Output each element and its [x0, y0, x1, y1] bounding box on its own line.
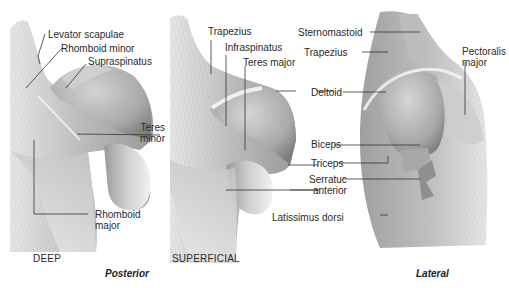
label-pectoralis-major-line1: Pectoralis: [462, 46, 506, 57]
label-serratus-anterior-line1: Serratuc: [309, 174, 347, 185]
label-infraspinatus: Infraspinatus: [225, 42, 282, 53]
label-deltoid: Deltoid: [311, 87, 342, 98]
label-trapezius-lateral: Trapezius: [304, 47, 348, 58]
label-trapezius-posterior: Trapezius: [208, 26, 252, 37]
label-serratus-anterior-line2: anterior: [313, 185, 347, 196]
label-triceps: Triceps: [311, 158, 343, 169]
caption-lateral: Lateral: [416, 268, 449, 279]
label-teres-minor-line2: minor: [139, 133, 165, 144]
label-rhomboid-minor: Rhomboid minor: [61, 43, 134, 54]
label-rhomboid-major-line2: major: [95, 220, 120, 231]
label-sternomastoid: Sternomastoid: [298, 27, 362, 38]
label-rhomboid-major-line1: Rhomboid: [95, 209, 141, 220]
label-teres-minor-line1: Teres: [139, 122, 165, 133]
anatomy-figure: Levator scapulae Rhomboid minor Supraspi…: [0, 0, 509, 288]
label-pectoralis-major-line2: major: [462, 57, 487, 68]
label-biceps: Biceps: [311, 139, 341, 150]
label-teres-major: Teres major: [243, 57, 295, 68]
caption-posterior: Posterior: [105, 268, 149, 279]
caption-superficial: SUPERFICIAL: [172, 253, 240, 264]
label-levator-scapulae: Levator scapulae: [48, 29, 124, 40]
label-supraspinatus: Supraspinatus: [88, 56, 152, 67]
caption-deep: DEEP: [33, 253, 61, 264]
label-latissimus-dorsi: Latissimus dorsi: [272, 212, 344, 223]
